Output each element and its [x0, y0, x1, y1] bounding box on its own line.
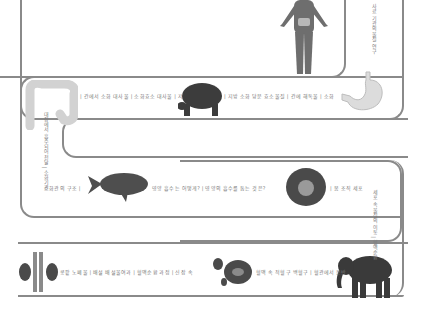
row2-right-label: | 몸 조직 세포: [330, 184, 363, 191]
row3-left-label: 콩팥 노폐물 | 배설 배설물여과 | 혈액순환 과정 | 신장 속: [60, 268, 193, 275]
cell-icon: [284, 166, 328, 208]
stomach-icon: [338, 70, 388, 114]
vertical-right-top-label: 사료 기관의 물질 연구: [370, 4, 377, 54]
blood-cells-icon: [210, 256, 254, 290]
row2-left-label: 소화관의 구조 |: [44, 184, 81, 191]
row1-left-label: | 간에서 소화 대사물 | 소화효소 대사물 | 저: [80, 92, 183, 99]
row3-right-label: 혈액 속 적혈구 백혈구 | 혈관에서 운반: [256, 268, 347, 275]
large-intestine-icon: [24, 80, 78, 130]
track-row3-top: [18, 242, 408, 244]
kidneys-icon: [18, 252, 60, 292]
elephant-icon: [334, 252, 398, 300]
row2-mid-label: 영양 흡수는 어떻게? | 영양의 흡수를 돕는 것은?: [152, 184, 266, 191]
vertical-right-mid-label: 세포 속 물질의 이동 | 혈액순환: [371, 190, 378, 260]
row1-right-label: | 지방 소화 당분 효소물질 | 간에 해독물 | 소화: [224, 92, 334, 99]
tortoise-icon: [178, 80, 226, 118]
human-body-icon: [276, 0, 332, 76]
vertical-left-label: 대장에서 흡수되어 전달 | 소화기관: [42, 112, 49, 190]
fish-icon: [86, 170, 152, 204]
